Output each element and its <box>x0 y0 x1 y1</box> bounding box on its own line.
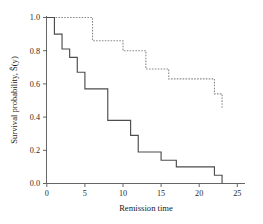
x-tick-label-15: 15 <box>157 189 165 198</box>
survival-curve-solid <box>47 18 222 184</box>
survival-plot-figure: 0.0 0.2 0.4 0.6 0.8 1.0 0 5 10 15 20 25 … <box>0 0 263 224</box>
y-tick-label-4: 0.8 <box>30 47 40 56</box>
x-tick-group <box>47 184 238 188</box>
x-tick-label-0: 0 <box>45 189 49 198</box>
y-axis-title: Survival probability, Ŝ(y) <box>9 56 19 144</box>
y-tick-label-1: 0.2 <box>30 146 40 155</box>
x-tick-label-group: 0 5 10 15 20 25 <box>45 189 242 198</box>
x-tick-label-10: 10 <box>119 189 127 198</box>
y-tick-label-0: 0.0 <box>30 179 40 188</box>
x-tick-label-25: 25 <box>233 189 241 198</box>
y-tick-label-3: 0.6 <box>30 80 40 89</box>
x-axis-title: Remission time <box>119 203 173 213</box>
y-tick-label-group: 0.0 0.2 0.4 0.6 0.8 1.0 <box>30 13 40 188</box>
y-tick-label-5: 1.0 <box>30 13 40 22</box>
y-tick-label-2: 0.4 <box>30 113 40 122</box>
kaplan-meier-chart: 0.0 0.2 0.4 0.6 0.8 1.0 0 5 10 15 20 25 … <box>0 0 263 224</box>
survival-curve-dashed <box>47 18 222 109</box>
x-tick-label-5: 5 <box>83 189 87 198</box>
y-tick-group <box>43 18 47 184</box>
x-tick-label-20: 20 <box>195 189 203 198</box>
